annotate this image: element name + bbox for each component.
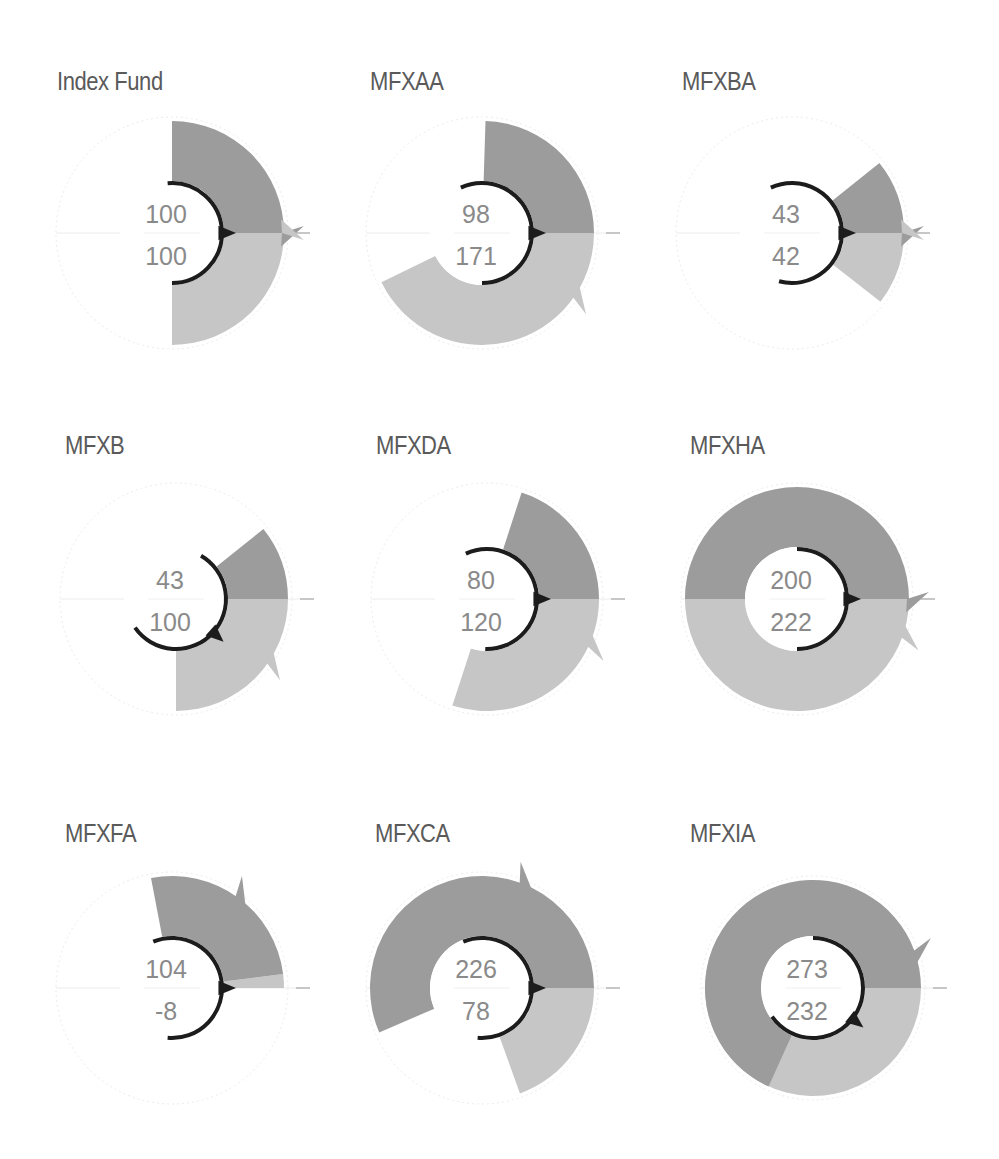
value-bottom: -8 — [155, 997, 177, 1025]
value-top: 98 — [462, 200, 490, 228]
value-bottom: 100 — [149, 608, 191, 636]
value-top: 200 — [770, 566, 812, 594]
value-bottom: 120 — [460, 608, 502, 636]
value-top: 80 — [467, 566, 495, 594]
value-top: 104 — [145, 955, 187, 983]
series2-wedge — [833, 233, 904, 302]
value-bottom: 171 — [455, 242, 497, 270]
value-top: 100 — [145, 200, 187, 228]
series1-wedge — [833, 163, 904, 233]
series2-marker — [900, 624, 918, 651]
value-bottom: 100 — [145, 242, 187, 270]
value-top: 273 — [786, 955, 828, 983]
value-bottom: 222 — [770, 608, 812, 636]
value-bottom: 42 — [772, 242, 800, 270]
value-top: 43 — [772, 200, 800, 228]
value-bottom: 78 — [462, 997, 490, 1025]
value-top: 43 — [156, 566, 184, 594]
value-bottom: 232 — [786, 997, 828, 1025]
radial-charts: 1001009817143424310080120200222104-82267… — [0, 0, 999, 1159]
value-top: 226 — [455, 955, 497, 983]
series1-wedge — [217, 529, 288, 599]
series1-marker — [906, 592, 929, 612]
